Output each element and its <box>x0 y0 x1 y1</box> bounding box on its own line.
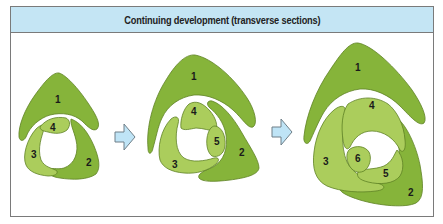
segment-3-label: 3 <box>31 149 37 160</box>
segment-5-label: 5 <box>214 136 220 147</box>
segment-3-label: 3 <box>172 159 178 170</box>
segment-4-label: 4 <box>369 100 375 111</box>
segment-4-label: 4 <box>191 106 197 117</box>
segment-2-label: 2 <box>239 147 245 158</box>
segment-3-label: 3 <box>323 156 329 167</box>
segment-5-label: 5 <box>383 168 389 179</box>
segment-6-label: 6 <box>355 153 361 164</box>
stage-1: 1 2 3 4 <box>19 73 99 179</box>
segment-2-label: 2 <box>408 187 414 198</box>
segment-4-label: 4 <box>50 122 56 133</box>
transverse-sections-diagram: .dk { fill: #86b43a; stroke: #5e8124; st… <box>0 0 443 224</box>
segment-2-label: 2 <box>86 157 92 168</box>
segment-1-label: 1 <box>55 94 61 105</box>
segment-1-label: 1 <box>355 62 361 73</box>
arrow-right-icon <box>115 124 135 150</box>
arrow-right-icon <box>272 119 292 145</box>
stage-3: 1 2 3 4 5 6 <box>304 43 425 206</box>
stage-2: 1 2 3 4 5 <box>148 55 259 181</box>
segment-1-label: 1 <box>191 71 197 82</box>
